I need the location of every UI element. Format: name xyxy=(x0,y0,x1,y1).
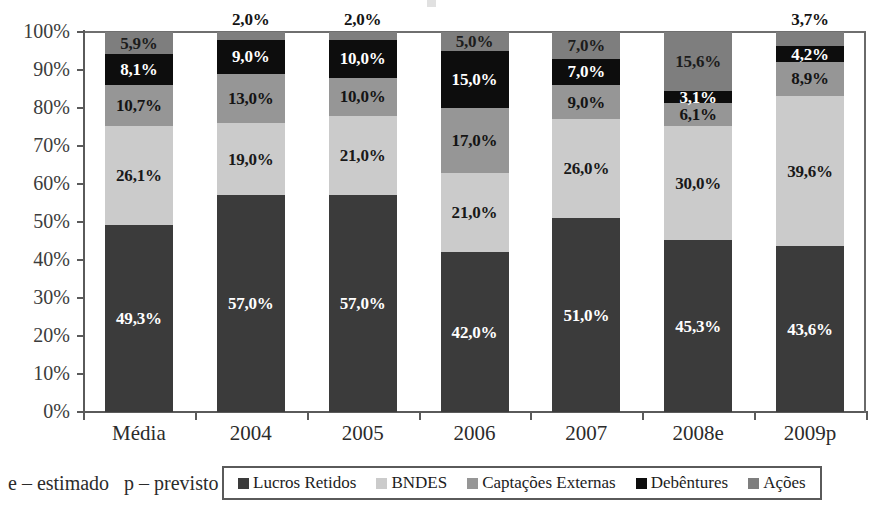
bar-segment-value-label: 8,9% xyxy=(791,70,828,87)
bar-segment[interactable]: 57,0% xyxy=(329,195,397,412)
bar-2009p[interactable]: 43,6%39,6%8,9%4,2%3,7% xyxy=(776,32,844,412)
bar-segment[interactable]: 8,9% xyxy=(776,62,844,96)
bar-segment[interactable]: 2,0% xyxy=(329,32,397,40)
bar-segment[interactable]: 43,6% xyxy=(776,246,844,412)
y-axis-tick-mark xyxy=(77,183,85,185)
bar-segment-value-label: 30,0% xyxy=(675,175,721,192)
y-axis-tick-label: 40% xyxy=(6,249,70,269)
bar-segment-value-label: 10,7% xyxy=(116,97,162,114)
y-axis-tick-mark xyxy=(77,31,85,33)
legend-label: Ações xyxy=(763,474,805,492)
bar-segment-value-label: 57,0% xyxy=(228,295,274,312)
legend-item[interactable]: Debêntures xyxy=(636,474,728,492)
legend-item[interactable]: Captações Externas xyxy=(467,474,616,492)
bar-segment[interactable]: 30,0% xyxy=(664,126,732,240)
bar-segment-value-label: 5,9% xyxy=(120,35,157,52)
legend-label: Lucros Retidos xyxy=(253,474,356,492)
bar-segment[interactable]: 5,0% xyxy=(441,32,509,51)
bar-segment-value-label: 51,0% xyxy=(563,307,609,324)
bar-2005[interactable]: 57,0%21,0%10,0%10,0%2,0% xyxy=(329,32,397,412)
y-axis: 0%10%20%30%40%50%60%70%80%90%100% xyxy=(0,0,70,515)
legend-label: Captações Externas xyxy=(482,474,616,492)
y-axis-tick-mark xyxy=(77,107,85,109)
legend-swatch-icon xyxy=(636,478,647,489)
bar-2004[interactable]: 57,0%19,0%13,0%9,0%2,0% xyxy=(217,32,285,412)
bar-segment[interactable]: 21,0% xyxy=(329,116,397,196)
bar-segment[interactable]: 10,0% xyxy=(329,40,397,78)
bar-segment[interactable]: 42,0% xyxy=(441,252,509,412)
legend-label: BNDES xyxy=(391,474,447,492)
x-axis-tick-mark xyxy=(307,411,309,420)
bar-segment[interactable]: 5,9% xyxy=(105,32,173,54)
bar-segment[interactable]: 7,0% xyxy=(552,59,620,86)
bar-segment[interactable]: 3,7% xyxy=(776,32,844,46)
bar-segment[interactable]: 15,0% xyxy=(441,51,509,108)
bar-segment[interactable]: 7,0% xyxy=(552,32,620,59)
bar-segment-value-label: 8,1% xyxy=(120,61,157,78)
x-axis-tick-mark xyxy=(866,411,868,420)
bar-segment-value-label: 7,0% xyxy=(568,63,605,80)
bar-segment[interactable]: 13,0% xyxy=(217,74,285,123)
y-axis-tick-label: 90% xyxy=(6,59,70,79)
x-axis-tick-mark xyxy=(530,411,532,420)
bar-segment-value-label: 39,6% xyxy=(787,163,833,180)
bar-segment[interactable]: 9,0% xyxy=(217,40,285,74)
bar-segment[interactable]: 45,3% xyxy=(664,240,732,412)
y-axis-tick-label: 30% xyxy=(6,287,70,307)
y-axis-tick-label: 70% xyxy=(6,135,70,155)
x-axis-tick-label: 2008e xyxy=(642,420,754,446)
bar-segment[interactable]: 15,6% xyxy=(664,32,732,91)
bar-segment[interactable]: 4,2% xyxy=(776,46,844,62)
bar-segment[interactable]: 39,6% xyxy=(776,96,844,246)
y-axis-tick-mark xyxy=(77,297,85,299)
bar-2007[interactable]: 51,0%26,0%9,0%7,0%7,0% xyxy=(552,32,620,412)
bar-segment-value-label: 49,3% xyxy=(116,310,162,327)
bar-segment[interactable]: 10,7% xyxy=(105,85,173,126)
bar-segment-value-label: 45,3% xyxy=(675,318,721,335)
bar-segment[interactable]: 2,0% xyxy=(217,32,285,40)
bar-segment[interactable]: 3,1% xyxy=(664,91,732,103)
bar-segment[interactable]: 8,1% xyxy=(105,54,173,85)
bar-segment[interactable]: 26,1% xyxy=(105,126,173,225)
bar-segment[interactable]: 57,0% xyxy=(217,195,285,412)
bar-segment-value-label: 5,0% xyxy=(456,33,493,50)
y-axis-tick-label: 0% xyxy=(6,401,70,421)
bar-segment[interactable]: 10,0% xyxy=(329,78,397,116)
x-axis-tick-mark xyxy=(642,411,644,420)
bar-segment[interactable]: 49,3% xyxy=(105,225,173,412)
bar-2006[interactable]: 42,0%21,0%17,0%15,0%5,0% xyxy=(441,32,509,412)
bar-segment-value-label: 9,0% xyxy=(568,94,605,111)
bar-segment-value-label: 3,7% xyxy=(791,11,828,28)
legend-label: Debêntures xyxy=(651,474,728,492)
bar-segment[interactable]: 9,0% xyxy=(552,85,620,119)
legend-item[interactable]: BNDES xyxy=(376,474,447,492)
legend-swatch-icon xyxy=(467,478,478,489)
bar-segment-value-label: 26,1% xyxy=(116,167,162,184)
bar-2008e[interactable]: 45,3%30,0%6,1%3,1%15,6% xyxy=(664,32,732,412)
bar-segment[interactable]: 51,0% xyxy=(552,218,620,412)
x-axis-tick-label: Média xyxy=(83,420,195,446)
bar-segment[interactable]: 21,0% xyxy=(441,173,509,253)
bar-segment-value-label: 26,0% xyxy=(563,160,609,177)
bar-m-dia[interactable]: 49,3%26,1%10,7%8,1%5,9% xyxy=(105,32,173,412)
x-axis-tick-label: 2009p xyxy=(754,420,866,446)
legend-item[interactable]: Lucros Retidos xyxy=(238,474,356,492)
bar-segment-value-label: 15,0% xyxy=(452,71,498,88)
x-axis-tick-mark xyxy=(419,411,421,420)
bar-segment[interactable]: 17,0% xyxy=(441,108,509,173)
x-axis-tick-label: 2006 xyxy=(419,420,531,446)
legend-item[interactable]: Ações xyxy=(748,474,805,492)
y-axis-tick-mark xyxy=(77,373,85,375)
y-axis-tick-mark xyxy=(77,145,85,147)
y-axis-tick-mark xyxy=(77,335,85,337)
y-axis-tick-mark xyxy=(77,221,85,223)
scan-artifact xyxy=(427,0,436,7)
bar-segment[interactable]: 19,0% xyxy=(217,123,285,195)
bars-layer: 49,3%26,1%10,7%8,1%5,9%57,0%19,0%13,0%9,… xyxy=(83,32,866,412)
footnote-legend-note: e – estimado p – previsto xyxy=(8,472,219,494)
bar-segment[interactable]: 26,0% xyxy=(552,119,620,218)
y-axis-tick-label: 80% xyxy=(6,97,70,117)
bar-segment-value-label: 2,0% xyxy=(344,11,381,28)
bar-segment-value-label: 13,0% xyxy=(228,90,274,107)
y-axis-tick-label: 10% xyxy=(6,363,70,383)
